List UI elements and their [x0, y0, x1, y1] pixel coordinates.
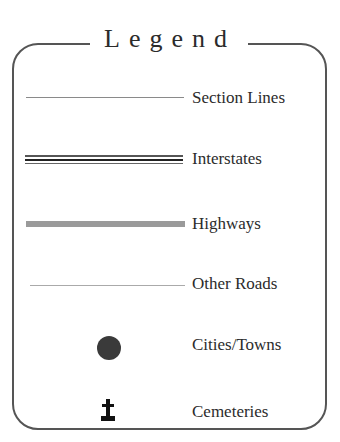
- legend-title: Legend: [96, 24, 244, 54]
- legend-item-section-lines: Section Lines: [0, 88, 340, 118]
- legend-label: Cemeteries: [192, 402, 268, 422]
- legend-label: Cities/Towns: [192, 335, 281, 355]
- cemetery-cross-icon: [100, 399, 116, 423]
- section-line-symbol: [26, 97, 184, 98]
- interstate-symbol-bottom: [25, 163, 183, 164]
- city-dot-icon: [97, 336, 121, 360]
- legend-item-cemeteries: Cemeteries: [0, 399, 340, 429]
- legend-item-interstates: Interstates: [0, 149, 340, 179]
- legend-label: Interstates: [192, 149, 262, 169]
- highway-symbol: [26, 221, 185, 227]
- legend-label: Section Lines: [192, 88, 285, 108]
- legend-item-other-roads: Other Roads: [0, 273, 340, 303]
- interstate-symbol-top: [25, 155, 183, 157]
- interstate-symbol-mid: [25, 159, 183, 161]
- legend-item-highways: Highways: [0, 212, 340, 242]
- legend-label: Other Roads: [192, 274, 277, 294]
- legend-item-cities-towns: Cities/Towns: [0, 335, 340, 365]
- legend-label: Highways: [192, 214, 261, 234]
- other-road-symbol: [30, 285, 185, 286]
